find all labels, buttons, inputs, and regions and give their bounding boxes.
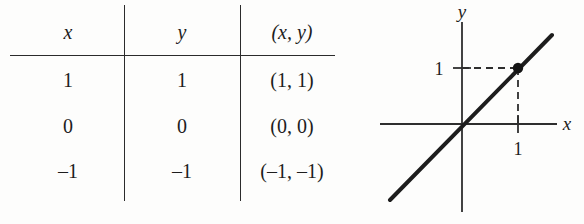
table-row: (0, 0)	[240, 116, 344, 136]
line-y-equals-x	[390, 35, 552, 200]
table-row: 1	[8, 70, 128, 90]
coordinate-graph: y x 1 1	[345, 0, 584, 224]
table-header-x: x	[8, 22, 128, 42]
x-tick-label-1: 1	[514, 139, 523, 159]
table-header-y: y	[124, 22, 240, 42]
value-table: x y (x, y) 1 1 (1, 1) 0 0 (0, 0) –1 –1 (…	[0, 0, 345, 224]
table-row: 0	[124, 116, 240, 136]
figure-canvas: x y (x, y) 1 1 (1, 1) 0 0 (0, 0) –1 –1 (…	[0, 0, 584, 224]
y-tick-label-1: 1	[435, 59, 444, 79]
table-row: (1, 1)	[240, 70, 344, 90]
table-row: –1	[124, 161, 240, 181]
table-row: 1	[124, 70, 240, 90]
table-row: (–1, –1)	[240, 161, 344, 181]
graph-svg: y x 1 1	[345, 0, 584, 224]
table-row: –1	[8, 161, 128, 181]
x-axis-label: x	[562, 113, 572, 134]
table-header-rule	[10, 55, 335, 56]
table-header-xy-pair: (x, y)	[240, 22, 344, 42]
table-row: 0	[8, 116, 128, 136]
plotted-point-1-1	[513, 63, 523, 73]
y-axis-label: y	[456, 1, 467, 22]
